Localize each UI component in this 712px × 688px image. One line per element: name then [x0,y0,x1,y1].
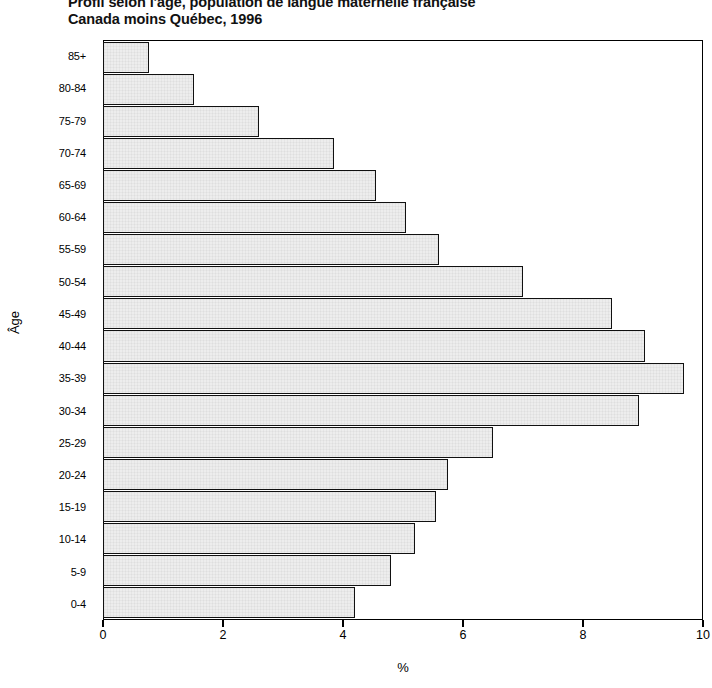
x-axis-tick-labels: 0246810 [103,628,703,644]
y-axis-tick-label: 20-24 [0,459,95,491]
y-axis-tick-label: 15-19 [0,491,95,523]
y-axis-tick-label: 75-79 [0,104,95,136]
x-axis-tick-label: 4 [340,628,347,642]
y-axis-tick-label: 70-74 [0,137,95,169]
y-axis-tick-label: 30-34 [0,394,95,426]
x-axis-tick-label: 0 [100,628,107,642]
x-axis-title: % [103,660,703,675]
y-axis-tick-label: 10-14 [0,523,95,555]
y-axis-tick-labels: 85+80-8475-7970-7465-6960-6455-5950-5445… [0,40,95,620]
bar [103,330,645,361]
bar-row [104,202,702,234]
bar [103,555,391,586]
x-axis-tick [102,620,104,627]
bar-series [104,41,702,619]
bar-row [104,491,702,523]
bar-row [104,105,702,137]
bar-row [104,555,702,587]
chart-title-line-1: Profil selon l'âge, population de langue… [68,0,628,11]
bar [103,170,376,201]
bar [103,298,612,329]
x-axis-tick [222,620,224,627]
bar [103,202,406,233]
bar-row [104,266,702,298]
bar [103,138,334,169]
bar-row [104,169,702,201]
bar [103,363,684,394]
y-axis-tick-label: 50-54 [0,266,95,298]
chart-title-line-2: Canada moins Québec, 1996 [68,11,628,28]
bar [103,106,259,137]
bar [103,395,639,426]
x-axis-tick [582,620,584,627]
bar-row [104,426,702,458]
bar-row [104,362,702,394]
x-axis-ticks [103,620,703,627]
x-axis-tick-label: 2 [220,628,227,642]
bar-row [104,330,702,362]
y-axis-tick-label: 45-49 [0,298,95,330]
y-axis-tick-label: 80-84 [0,72,95,104]
chart-title: Profil selon l'âge, population de langue… [68,0,628,28]
y-axis-tick-label: 0-4 [0,588,95,620]
bar-row [104,587,702,619]
bar-row [104,41,702,73]
bar [103,234,439,265]
x-axis-tick-label: 8 [580,628,587,642]
bar-row [104,298,702,330]
plot-area [103,40,703,620]
bar [103,427,493,458]
bar [103,42,149,73]
bar [103,587,355,618]
bar [103,266,523,297]
x-axis-tick-label: 10 [696,628,710,642]
y-axis-tick-label: 60-64 [0,201,95,233]
x-axis-tick [342,620,344,627]
bar [103,491,436,522]
bar-row [104,523,702,555]
bar [103,459,448,490]
y-axis-tick-label: 65-69 [0,169,95,201]
x-axis-tick [702,620,704,627]
y-axis-tick-label: 40-44 [0,330,95,362]
y-axis-tick-label: 25-29 [0,427,95,459]
bar-row [104,234,702,266]
y-axis-tick-label: 55-59 [0,233,95,265]
bar [103,74,194,105]
bar-row [104,73,702,105]
bar-row [104,394,702,426]
y-axis-tick-label: 85+ [0,40,95,72]
x-axis-tick-label: 6 [460,628,467,642]
y-axis-tick-label: 35-39 [0,362,95,394]
x-axis-tick [462,620,464,627]
bar-row [104,137,702,169]
y-axis-tick-label: 5-9 [0,556,95,588]
bar [103,523,415,554]
bar-row [104,458,702,490]
